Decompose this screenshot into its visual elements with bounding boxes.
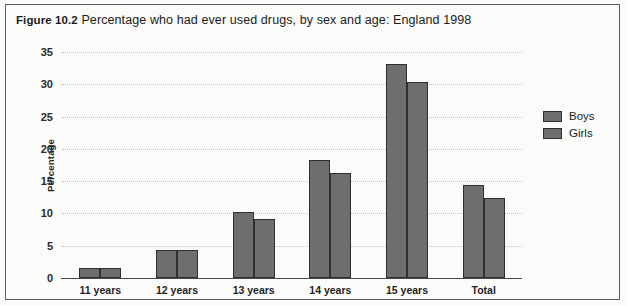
bar-group: 14 years — [308, 160, 352, 278]
x-axis-tick-total: Total — [472, 284, 496, 296]
x-axis-tick-12-years: 12 years — [156, 284, 198, 296]
figure-caption: Percentage who had ever used drugs, by s… — [81, 13, 471, 27]
legend-label-boys: Boys — [569, 110, 595, 122]
figure-number: Figure 10.2 — [16, 14, 78, 26]
bar-boys-11-years — [79, 268, 100, 278]
grid-line — [62, 117, 522, 118]
y-axis-tick-35: 35 — [41, 46, 53, 58]
bar-boys-15-years — [386, 64, 407, 278]
bar-girls-15-years — [407, 82, 428, 278]
bar-boys-total — [463, 185, 484, 278]
grid-line — [62, 84, 522, 85]
y-axis-tick-30: 30 — [41, 78, 53, 90]
bar-group: 13 years — [232, 212, 276, 279]
y-axis-tick-10: 10 — [41, 207, 53, 219]
y-axis-tick-5: 5 — [47, 240, 53, 252]
bar-group: 12 years — [155, 250, 199, 278]
x-axis-tick-11-years: 11 years — [80, 284, 121, 296]
bar-group: Total — [462, 185, 506, 278]
x-axis-tick-13-years: 13 years — [233, 284, 275, 296]
bar-girls-13-years — [254, 219, 275, 278]
y-axis-tick-15: 15 — [41, 175, 53, 187]
bar-boys-12-years — [156, 250, 177, 278]
plot-area: 0510152025303511 years12 years13 years14… — [62, 52, 522, 278]
legend-item-girls: Girls — [543, 125, 595, 141]
x-axis-tick-15-years: 15 years — [386, 284, 428, 296]
legend-item-boys: Boys — [543, 108, 595, 124]
bar-boys-13-years — [233, 212, 254, 279]
bar-group: 15 years — [385, 64, 429, 278]
y-axis-tick-20: 20 — [41, 143, 53, 155]
grid-line — [62, 149, 522, 150]
x-axis-tick-14-years: 14 years — [309, 284, 351, 296]
y-axis-tick-25: 25 — [41, 111, 53, 123]
bar-girls-total — [484, 198, 505, 278]
chart-legend: Boys Girls — [543, 108, 595, 142]
legend-swatch-boys — [543, 111, 562, 122]
figure-title: Figure 10.2 Percentage who had ever used… — [16, 13, 471, 27]
legend-swatch-girls — [543, 128, 562, 139]
bar-boys-14-years — [309, 160, 330, 278]
grid-line — [62, 52, 522, 53]
x-axis-baseline — [61, 278, 522, 279]
y-axis-tick-0: 0 — [47, 272, 53, 284]
bar-group: 11 years — [78, 268, 122, 278]
grid-line — [62, 181, 522, 182]
figure-container: Figure 10.2 Percentage who had ever used… — [0, 0, 627, 306]
bar-girls-11-years — [100, 268, 121, 278]
grid-line — [62, 213, 522, 214]
grid-line — [62, 246, 522, 247]
legend-label-girls: Girls — [569, 127, 593, 139]
bar-girls-14-years — [330, 173, 351, 278]
bar-girls-12-years — [177, 250, 198, 278]
